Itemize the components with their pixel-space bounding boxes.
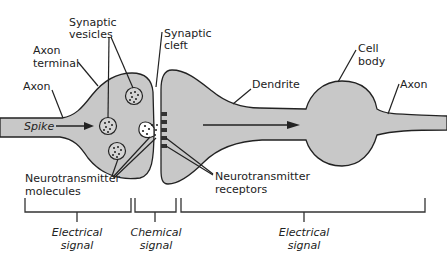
bracket-label-electrical-left-line2: signal — [61, 239, 94, 252]
neurotransmitter-molecules-label: Neurotransmitter — [25, 172, 120, 185]
leader-line — [388, 84, 399, 114]
leader-line — [233, 89, 251, 104]
synaptic-vesicles-label-line2: vesicles — [69, 28, 113, 41]
neurotransmitter-receptors-label-line2: receptors — [215, 183, 267, 196]
leader-line — [156, 32, 162, 87]
synaptic-vesicle — [100, 118, 117, 135]
neurotransmitter-molecules-label-line2: molecules — [25, 185, 81, 198]
bracket-label-chemical: Chemical — [130, 226, 181, 239]
bracket-electrical-right — [181, 198, 425, 222]
bracket-label-chemical-line2: signal — [140, 239, 173, 252]
bracket-label-electrical-left: Electrical — [52, 226, 103, 239]
axon-left-label: Axon — [23, 80, 50, 93]
synapse-diagram: Spike Synaptic vesicles Synaptic cleft A… — [0, 0, 447, 263]
bracket-chemical — [135, 198, 176, 222]
spike-label: Spike — [24, 120, 54, 133]
bracket-label-electrical-right: Electrical — [279, 226, 330, 239]
bracket-label-electrical-right-line2: signal — [288, 239, 321, 252]
leader-line — [52, 90, 63, 118]
synaptic-vesicle — [109, 143, 126, 160]
dendrite-label: Dendrite — [252, 78, 300, 91]
synaptic-vesicle — [126, 88, 143, 105]
fusing-vesicle — [139, 122, 158, 138]
bracket-electrical-left — [25, 198, 131, 222]
axon-terminal-label: Axon — [33, 44, 60, 57]
leader-line — [338, 50, 356, 82]
leader-line — [78, 62, 98, 86]
axon-terminal-label-line2: terminal — [33, 57, 79, 70]
axon-right-label: Axon — [400, 78, 427, 91]
cell-body-label: Cell — [358, 42, 379, 55]
cell-body-label-line2: body — [358, 55, 386, 68]
neurotransmitter-receptors-label: Neurotransmitter — [215, 170, 310, 183]
synaptic-cleft-label-line2: cleft — [164, 39, 189, 52]
